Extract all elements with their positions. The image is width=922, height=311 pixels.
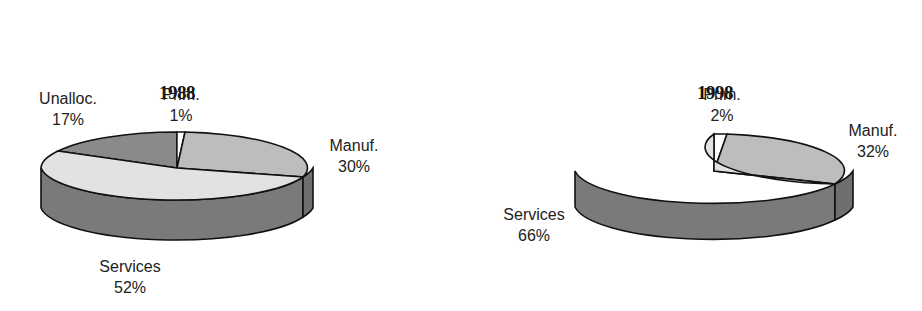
- label-1998-manuf-name: Manuf.: [849, 120, 898, 141]
- pie-chart-1998: [0, 0, 922, 311]
- label-1998-prim-value: 2%: [703, 105, 740, 126]
- label-1998-services: Services 66%: [503, 204, 564, 246]
- pie-1998-manuf-slice: [714, 134, 845, 184]
- label-1998-services-name: Services: [503, 204, 564, 225]
- label-1998-prim: Prim. 2%: [703, 84, 740, 126]
- label-1998-prim-name: Prim.: [703, 84, 740, 105]
- label-1998-services-value: 66%: [503, 225, 564, 246]
- label-1998-manuf: Manuf. 32%: [849, 120, 898, 162]
- label-1998-manuf-value: 32%: [849, 141, 898, 162]
